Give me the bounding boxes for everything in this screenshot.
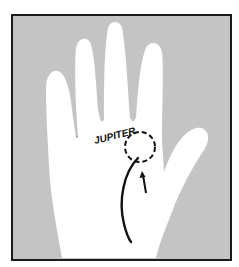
palm-diagram: JUPITER [0,0,239,267]
palm-illustration: JUPITER [0,0,239,267]
